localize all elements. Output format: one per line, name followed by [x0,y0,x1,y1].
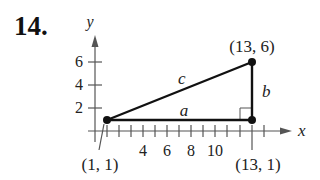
vertex-label-13-6: (13, 6) [229,37,274,56]
side-label-b: b [262,82,271,101]
y-tick-2: 2 [75,99,83,116]
y-axis-label: y [84,13,94,31]
vertex-1-1 [103,116,111,124]
x-tick-6: 6 [163,142,171,159]
y-axis [88,35,102,142]
x-tick-4: 4 [139,142,147,159]
y-tick-4: 4 [75,76,83,93]
vertex-label-1-1: (1, 1) [82,155,119,174]
triangle-diagram: y x 6 4 2 4 6 8 10 (1, 1) (13, 1) (13, 6… [0,0,320,180]
x-axis-arrow-icon [280,128,292,135]
side-label-a: a [180,101,189,120]
x-tick-10: 10 [207,142,223,159]
vertex-13-6 [248,58,256,66]
y-axis-arrow-icon [92,35,99,47]
vertex-label-13-1: (13, 1) [235,155,280,174]
side-label-c: c [178,69,186,88]
vertex-13-1 [248,116,256,124]
x-axis-label: x [297,121,306,140]
y-tick-6: 6 [75,53,83,70]
x-tick-8: 8 [187,142,195,159]
